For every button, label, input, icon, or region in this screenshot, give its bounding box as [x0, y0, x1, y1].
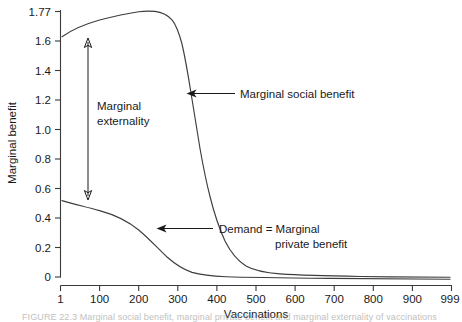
x-tick-label-800: 800: [364, 293, 383, 305]
y-axis-ticks: [55, 12, 61, 278]
x-tick-label-100: 100: [90, 293, 109, 305]
curve-marginal-social-benefit: [62, 11, 450, 277]
y-tick-label-1.6: 1.6: [35, 35, 51, 47]
x-tick-label-200: 200: [129, 293, 148, 305]
marginal-externality-label-line1: Marginal: [97, 100, 141, 112]
x-tick-label-500: 500: [246, 293, 265, 305]
y-tick-label-1.2: 1.2: [35, 94, 51, 106]
y-tick-label-0.4: 0.4: [35, 212, 52, 224]
demand-label-line1: Demand = Marginal: [219, 223, 320, 235]
y-tick-label-0.6: 0.6: [35, 183, 51, 195]
x-tick-label-700: 700: [325, 293, 344, 305]
x-tick-label-600: 600: [286, 293, 305, 305]
annotation-demand-marginal-private-benefit: Demand = Marginal private benefit: [157, 223, 349, 251]
y-tick-label-0: 0: [45, 271, 51, 283]
y-tick-label-0.8: 0.8: [35, 153, 51, 165]
x-tick-label-300: 300: [168, 293, 187, 305]
y-tick-label-1.4: 1.4: [35, 65, 52, 77]
x-tick-label-900: 900: [403, 293, 422, 305]
figure-caption: FIGURE 22.3 Marginal social benefit, mar…: [22, 312, 437, 322]
y-tick-label-0.2: 0.2: [35, 242, 51, 254]
figure-caption-strip: FIGURE 22.3 Marginal social benefit, mar…: [0, 312, 462, 322]
x-tick-label-1: 1: [57, 293, 63, 305]
marginal-social-benefit-label: Marginal social benefit: [240, 88, 355, 100]
y-tick-label-1.0: 1.0: [35, 124, 51, 136]
demand-label-line2: private benefit: [275, 238, 348, 250]
annotation-marginal-social-benefit: Marginal social benefit: [187, 88, 356, 100]
y-axis-title: Marginal benefit: [6, 101, 18, 184]
y-tick-label-1.77: 1.77: [29, 6, 51, 18]
figure-root: 1.77 1.6 1.4 1.2 1.0 0.8 0.6 0.4 0.2 0 1…: [0, 0, 462, 322]
marginal-benefit-chart: 1.77 1.6 1.4 1.2 1.0 0.8 0.6 0.4 0.2 0 1…: [0, 0, 462, 322]
x-axis-ticks: [61, 286, 452, 292]
annotation-marginal-externality: Marginal externality: [84, 38, 149, 200]
marginal-externality-label-line2: externality: [97, 115, 150, 127]
x-tick-label-999: 999: [440, 293, 459, 305]
curve-demand-marginal-private-benefit: [62, 201, 450, 280]
x-tick-label-400: 400: [207, 293, 226, 305]
